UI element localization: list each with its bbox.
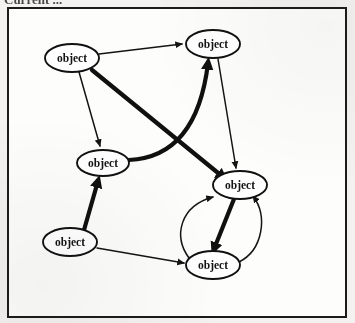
graph-node-n3[interactable]: object	[77, 150, 129, 176]
graph-node-n6[interactable]: object	[186, 251, 240, 279]
node-label: object	[55, 236, 85, 249]
graph-node-n4[interactable]: object	[43, 228, 97, 256]
node-label: object	[225, 179, 255, 192]
graph-node-n2[interactable]: object	[186, 30, 240, 58]
edge-n4-n3	[84, 181, 98, 230]
edge-n4-n6	[97, 248, 184, 263]
object-graph-diagram: object object object object object objec…	[0, 0, 355, 323]
edge-n1-n3	[79, 72, 100, 146]
graph-node-n1[interactable]: object	[45, 44, 99, 72]
node-label: object	[198, 38, 228, 51]
edge-n1-n2	[99, 44, 182, 54]
edge-n2-n5	[218, 59, 236, 168]
edge-n6-n5-left	[181, 197, 213, 258]
node-label: object	[57, 52, 87, 65]
edge-n5-n6	[214, 199, 234, 249]
node-label: object	[198, 259, 228, 272]
node-label: object	[88, 157, 118, 170]
graph-node-n5[interactable]: object	[213, 171, 267, 199]
edge-n6-n5-right	[239, 196, 261, 262]
